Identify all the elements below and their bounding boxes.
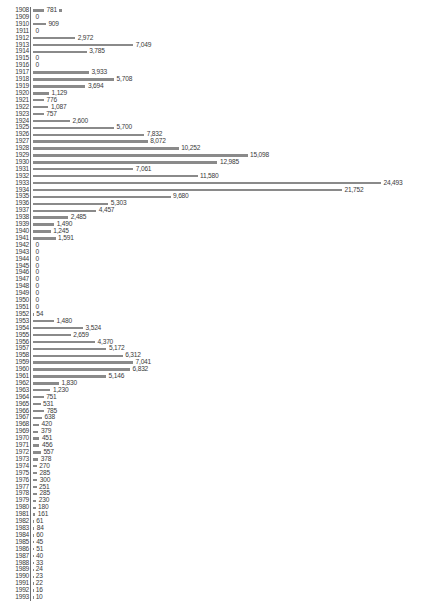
bar xyxy=(33,175,198,177)
bar-row: 19606,832 xyxy=(0,366,428,373)
value-label: 2,600 xyxy=(70,118,88,125)
bar-row: 198651 xyxy=(0,546,428,553)
value-label: 781 xyxy=(44,7,57,14)
bar xyxy=(33,113,44,115)
bar-row: 192915,098 xyxy=(0,152,428,159)
bar-row: 19090 xyxy=(0,14,428,21)
bar-row: 19185,708 xyxy=(0,76,428,83)
marker-square-icon xyxy=(59,9,62,12)
value-label: 0 xyxy=(33,28,39,35)
bar-row: 1969379 xyxy=(0,428,428,435)
bar-row: 19575,172 xyxy=(0,345,428,352)
bar-track: 2,485 xyxy=(33,214,428,221)
bar-row: 19122,972 xyxy=(0,35,428,42)
bar-track: 757 xyxy=(33,111,428,118)
bar-track: 2,972 xyxy=(33,35,428,42)
value-label: 3,785 xyxy=(87,48,105,55)
bar-row: 1970451 xyxy=(0,435,428,442)
bar-row: 199216 xyxy=(0,587,428,594)
bar xyxy=(33,327,83,329)
bar xyxy=(33,147,179,149)
bar-row: 1967638 xyxy=(0,414,428,421)
bar-track: 285 xyxy=(33,490,428,497)
bar-row: 198545 xyxy=(0,539,428,546)
bar xyxy=(33,106,48,108)
bar xyxy=(33,334,71,336)
bar-row: 19420 xyxy=(0,242,428,249)
bar-track: 0 xyxy=(33,304,428,311)
bar xyxy=(33,92,49,94)
bar xyxy=(33,389,50,391)
bar-row: 19374,457 xyxy=(0,207,428,214)
bar xyxy=(33,182,381,184)
bar-row: 199023 xyxy=(0,573,428,580)
bar-row: 1979230 xyxy=(0,497,428,504)
bar xyxy=(33,44,133,46)
bar-track: 1,245 xyxy=(33,228,428,235)
value-label: 6,832 xyxy=(130,366,148,373)
bar-row: 198740 xyxy=(0,553,428,560)
bar-track: 6,312 xyxy=(33,352,428,359)
bar-row: 1981161 xyxy=(0,511,428,518)
bar xyxy=(33,403,41,405)
bar-track: 785 xyxy=(33,408,428,415)
bar xyxy=(33,382,59,384)
bar-track: 4,370 xyxy=(33,339,428,346)
horizontal-bar-chart: 19087811909019109091911019122,97219137,0… xyxy=(0,0,428,610)
bar xyxy=(33,154,248,156)
bar-track: 10,252 xyxy=(33,145,428,152)
bar-row: 198261 xyxy=(0,518,428,525)
value-label: 11,580 xyxy=(198,173,219,180)
bar-row: 198460 xyxy=(0,532,428,539)
bar-track: 1,087 xyxy=(33,104,428,111)
bar-track: 10 xyxy=(33,594,428,601)
bar-track: 9,680 xyxy=(33,193,428,200)
bar xyxy=(33,361,133,363)
bar xyxy=(33,417,42,419)
value-label: 5,172 xyxy=(106,345,124,352)
value-label: 4,457 xyxy=(96,207,114,214)
bar-track: 22 xyxy=(33,580,428,587)
bar-track: 378 xyxy=(33,456,428,463)
bar-row: 19586,312 xyxy=(0,352,428,359)
bar-row: 198384 xyxy=(0,525,428,532)
bar xyxy=(33,210,96,212)
bar-row: 1977251 xyxy=(0,484,428,491)
bar-row: 19430 xyxy=(0,249,428,256)
bar-row: 1966785 xyxy=(0,408,428,415)
bar xyxy=(33,375,106,377)
bar-track: 0 xyxy=(33,55,428,62)
bar-track: 11,580 xyxy=(33,173,428,180)
value-label: 54 xyxy=(34,311,43,318)
bar xyxy=(33,85,85,87)
bar-row: 19531,480 xyxy=(0,318,428,325)
bar-row: 19278,072 xyxy=(0,138,428,145)
bar-row: 193421,752 xyxy=(0,187,428,194)
bar xyxy=(33,23,46,25)
bar-track: 12,985 xyxy=(33,159,428,166)
bar xyxy=(33,189,342,191)
bar-track: 0 xyxy=(33,242,428,249)
bar-track: 0 xyxy=(33,263,428,270)
bar xyxy=(33,99,44,101)
bar xyxy=(33,341,95,343)
bar-row: 19490 xyxy=(0,290,428,297)
bar-row: 19543,524 xyxy=(0,325,428,332)
bar-track: 2,600 xyxy=(33,118,428,125)
bar-row: 198924 xyxy=(0,566,428,573)
value-label: 3,694 xyxy=(85,83,103,90)
bar-track: 270 xyxy=(33,463,428,470)
value-label: 7,061 xyxy=(133,166,151,173)
bar-track: 230 xyxy=(33,497,428,504)
bar-track: 776 xyxy=(33,97,428,104)
bar-track: 1,591 xyxy=(33,235,428,242)
bar-track: 1,230 xyxy=(33,387,428,394)
bar xyxy=(33,410,44,412)
bar xyxy=(33,196,171,198)
bar-track: 638 xyxy=(33,414,428,421)
bar-row: 19460 xyxy=(0,269,428,276)
bar-row: 19480 xyxy=(0,283,428,290)
bar xyxy=(33,120,70,122)
bar-track: 33 xyxy=(33,560,428,567)
bar-track: 7,061 xyxy=(33,166,428,173)
